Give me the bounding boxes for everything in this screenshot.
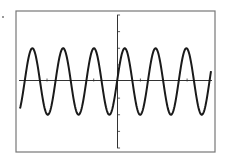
plot-frame (16, 11, 215, 152)
sine-curve (20, 48, 211, 115)
sine-graph (0, 0, 225, 161)
